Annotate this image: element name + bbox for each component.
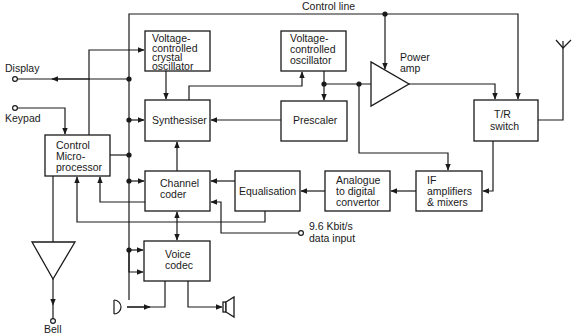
svg-text:processor: processor [56,161,103,173]
control-microprocessor-block: Control Micro- processor [45,135,110,176]
svg-text:& mixers: & mixers [427,196,468,208]
svg-text:switch: switch [490,120,519,132]
svg-text:data input: data input [309,232,355,244]
svg-text:9.6 Kbit/s: 9.6 Kbit/s [309,220,353,232]
prescaler-block: Prescaler [281,101,347,141]
vco-block: Voltage- controlled oscillator [281,31,346,71]
svg-text:T/R: T/R [494,108,511,120]
adc-block: Analogue to digital convertor [325,171,390,211]
codec-to-speaker-wire [188,281,222,307]
synthesiser-block: Synthesiser [145,100,210,141]
bus-to-codec-wire-2 [129,250,143,272]
antenna-icon [538,40,571,120]
svg-text:coder: coder [160,188,187,200]
if-amplifiers-block: IF amplifiers & mixers [416,171,482,211]
svg-text:codec: codec [165,259,193,271]
synth-to-vco-wire [189,72,302,100]
vcxo-block: Voltage- controlled crystal oscillator [145,31,210,72]
svg-text:Synthesiser: Synthesiser [152,114,207,126]
control-line-label: Control line [302,0,355,12]
display-label: Display [5,62,40,74]
svg-text:oscillator: oscillator [152,60,194,72]
svg-text:Equalisation: Equalisation [239,185,296,197]
keypad-label: Keypad [5,112,41,124]
display-terminal: Display [5,62,132,82]
speaker-icon [223,297,234,317]
mic-to-codec-wire [127,281,165,307]
keypad-terminal: Keypad [5,106,65,134]
equalisation-block: Equalisation [235,171,300,211]
voice-codec-block: Voice codec [144,241,210,281]
svg-text:amp: amp [400,62,421,74]
power-amp: Power amp [371,51,430,106]
svg-text:oscillator: oscillator [290,54,332,66]
tr-to-if-wire [483,141,493,191]
block-diagram: Control line Display Keypad Voltage- con… [0,0,580,335]
triangle-amplifier-icon [32,242,75,279]
svg-text:Bell: Bell [44,323,62,335]
micro-to-vcxo-wire [89,50,144,135]
svg-text:convertor: convertor [336,196,380,208]
pa-to-tr-wire [409,84,495,99]
microphone-icon [114,300,121,314]
bell-output: Bell [32,176,75,335]
tr-switch-block: T/R switch [474,100,538,141]
channel-coder-block: Channel coder [145,171,210,211]
svg-text:Prescaler: Prescaler [293,114,338,126]
